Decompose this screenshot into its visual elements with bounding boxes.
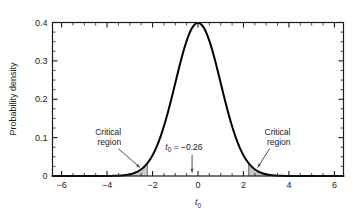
y-axis-title: Probability density (8, 62, 18, 136)
y-tick-label: 0.3 (35, 56, 48, 66)
x-tick-label: 4 (286, 180, 291, 190)
critical-region-right-line1: Critical (265, 127, 291, 137)
critical-region-left-line2: region (98, 137, 122, 147)
critical-region-right-label: Critical region (265, 127, 293, 147)
x-tick-label: 2 (241, 180, 246, 190)
x-tick-label: 0 (195, 180, 200, 190)
distribution-chart-svg: −6−4−20246 00.10.20.30.4 Probability den… (0, 0, 358, 213)
x-tick-label: −6 (56, 180, 66, 190)
x-tick-label: −4 (102, 180, 112, 190)
t0-value-text: = −0.26 (171, 142, 202, 152)
critical-region-left-line1: Critical (95, 127, 121, 137)
y-tick-label: 0.2 (35, 94, 48, 104)
x-axis-title-sub: 0 (197, 202, 201, 209)
x-tick-label: −2 (147, 180, 157, 190)
y-tick-label: 0 (42, 171, 47, 181)
y-tick-label: 0.4 (35, 18, 48, 28)
x-tick-label: 6 (332, 180, 337, 190)
y-tick-label: 0.1 (35, 133, 48, 143)
critical-region-right-line2: region (267, 137, 291, 147)
t0-observed-label: t0 = −0.26 (165, 142, 202, 154)
critical-region-left-label: Critical region (95, 127, 123, 147)
chart-figure: −6−4−20246 00.10.20.30.4 Probability den… (0, 0, 358, 213)
